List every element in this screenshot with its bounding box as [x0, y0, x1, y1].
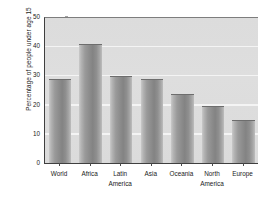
y-axis-tick-labels: 01020304050 [24, 17, 40, 163]
x-tick-mark [120, 163, 121, 166]
x-tick-label-line: Europe [232, 170, 253, 177]
x-tick-mark [181, 163, 182, 166]
bar [141, 79, 164, 164]
bar [232, 120, 255, 164]
bar-chart-figure: Percentage of people under age 15 010203… [0, 0, 258, 208]
x-tick-mark [90, 163, 91, 166]
x-tick-label-line: Africa [81, 170, 97, 177]
x-tick-label-line: America [200, 179, 223, 189]
x-tick-mark [212, 163, 213, 166]
x-tick-label-line: Oceania [169, 170, 193, 177]
y-tick-label: 30 [24, 72, 40, 78]
x-tick-label-line: World [51, 170, 68, 177]
x-tick-mark [59, 163, 60, 166]
x-tick-label-line: Asia [145, 170, 157, 177]
x-tick-label: Europe [232, 169, 253, 179]
x-tick-label: Africa [81, 169, 97, 179]
bar [110, 76, 133, 164]
x-tick-label: LatinAmerica [108, 169, 131, 188]
x-tick-label: World [51, 169, 68, 179]
bar [49, 79, 72, 164]
x-tick-label-line: Latin [113, 170, 127, 177]
x-tick-mark [151, 163, 152, 166]
plot-area [44, 17, 258, 164]
bar [79, 44, 102, 164]
x-axis-tick-labels: WorldAfricaLatinAmericaAsiaOceaniaNorthA… [44, 169, 258, 199]
y-tick-label: 40 [24, 43, 40, 49]
bar [202, 106, 225, 164]
x-tick-label: Asia [145, 169, 157, 179]
bar [171, 94, 194, 164]
y-tick-label: 20 [24, 101, 40, 107]
y-tick-label: 50 [24, 14, 40, 20]
x-tick-label: Oceania [169, 169, 193, 179]
bar-series [45, 18, 258, 164]
x-tick-mark [243, 163, 244, 166]
y-tick-label: 10 [24, 131, 40, 137]
y-tick-label: 0 [24, 160, 40, 166]
x-tick-label-line: America [108, 179, 131, 189]
x-tick-label-line: North [204, 170, 220, 177]
x-tick-label: NorthAmerica [200, 169, 223, 188]
